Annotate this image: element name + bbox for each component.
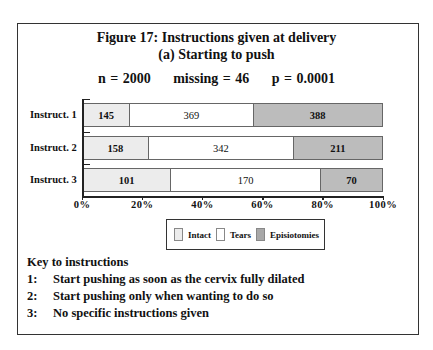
row-label: Instruct. 3 (30, 174, 77, 185)
x-tick-label: 80% (312, 199, 335, 210)
row-label: Instruct. 1 (30, 109, 77, 120)
row-label: Instruct. 2 (30, 142, 77, 153)
bar-segment-episiotomies: 70 (321, 168, 383, 192)
chart-title: Figure 17: Instructions given at deliver… (0, 30, 433, 46)
legend: Intact Tears Episiotomies (166, 219, 325, 250)
stacked-bar: 10117070 (82, 168, 383, 192)
key-heading: Key to instructions (27, 255, 128, 270)
bar-segment-intact: 101 (82, 168, 171, 192)
bar-segment-episiotomies: 388 (254, 103, 383, 127)
legend-swatch-episiotomies (256, 228, 265, 241)
x-tick-label: 60% (251, 199, 274, 210)
bar-segment-tears: 369 (130, 103, 253, 127)
x-tick-label: 0% (74, 199, 91, 210)
key-item-3: 3:No specific instructions given (27, 306, 209, 321)
bar-segment-intact: 158 (82, 136, 149, 160)
x-tick-label: 40% (191, 199, 214, 210)
stacked-bar: 158342211 (82, 136, 383, 160)
stacked-bar: 145369388 (82, 103, 383, 127)
stat-missing: missing = 46 (173, 71, 249, 86)
legend-swatch-tears (216, 228, 225, 241)
key-item-2: 2:Start pushing only when wanting to do … (27, 289, 274, 304)
legend-label-episiotomies: Episiotomies (270, 230, 319, 240)
chart-stats: n = 2000 missing = 46 p = 0.0001 (0, 71, 433, 87)
legend-swatch-intact (174, 228, 183, 241)
bar-segment-tears: 342 (149, 136, 294, 160)
x-axis (82, 196, 383, 198)
stat-p: p = 0.0001 (272, 71, 335, 86)
key-item-1: 1:Start pushing as soon as the cervix fu… (27, 272, 304, 287)
x-tick-label: 100% (369, 199, 397, 210)
bar-segment-tears: 170 (171, 168, 321, 192)
stat-n: n = 2000 (98, 71, 151, 86)
y-axis (82, 100, 84, 197)
bar-segment-intact: 145 (82, 103, 130, 127)
bar-segment-episiotomies: 211 (294, 136, 383, 160)
chart-subtitle: (a) Starting to push (0, 47, 433, 63)
legend-label-intact: Intact (188, 230, 211, 240)
x-tick-label: 20% (131, 199, 154, 210)
legend-label-tears: Tears (230, 230, 251, 240)
